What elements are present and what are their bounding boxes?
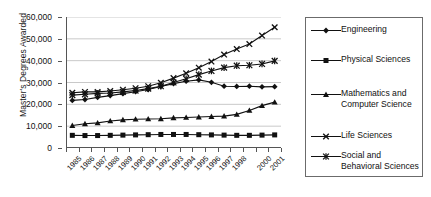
x-tick-mark <box>192 148 193 152</box>
x-tick-mark <box>205 148 206 152</box>
y-tick-mark <box>58 39 62 40</box>
legend-item-physical-sciences[interactable]: Physical Sciences <box>311 54 410 66</box>
legend-item-social-and-behavioral-sciences[interactable]: Social and Behavioral Sciences <box>311 150 422 171</box>
x-tick-mark <box>281 148 282 152</box>
legend-label: Social and Behavioral Sciences <box>341 150 422 171</box>
legend-marker-triangle-icon <box>311 89 341 100</box>
x-tick-mark <box>268 148 269 152</box>
y-tick-label: 50,000 <box>26 34 52 44</box>
x-tick-mark <box>256 148 257 152</box>
legend-label: Engineering <box>341 24 387 35</box>
x-tick-mark <box>218 148 219 152</box>
y-tick-label: 0 <box>47 143 52 153</box>
legend-item-mathematics-and-computer-science[interactable]: Mathematics and Computer Science <box>311 88 422 109</box>
plot-area <box>66 17 281 148</box>
x-tick-mark <box>79 148 80 152</box>
y-tick-label: 20,000 <box>26 99 52 109</box>
x-tick-mark <box>129 148 130 152</box>
x-tick-mark <box>104 148 105 152</box>
x-tick-mark <box>167 148 168 152</box>
legend-marker-x-icon <box>311 131 341 142</box>
chart-legend: EngineeringPhysical SciencesMathematics … <box>305 17 423 177</box>
chart-container: Master's Degrees Awarded 010,00020,00030… <box>0 0 431 197</box>
legend-marker-asterisk-icon <box>311 151 341 162</box>
y-axis-ticks: 010,00020,00030,00040,00050,00060,000 <box>0 17 62 148</box>
y-tick-label: 10,000 <box>26 121 52 131</box>
x-tick-mark <box>117 148 118 152</box>
x-tick-mark <box>180 148 181 152</box>
x-tick-mark <box>66 148 67 152</box>
legend-marker-square-icon <box>311 55 341 66</box>
legend-label: Physical Sciences <box>341 54 410 65</box>
data-point-diamond <box>323 28 329 34</box>
y-tick-mark <box>58 104 62 105</box>
data-point-square <box>324 58 329 63</box>
legend-marker-diamond-icon <box>311 25 341 36</box>
data-point-asterisk <box>323 153 329 160</box>
x-tick-mark <box>91 148 92 152</box>
legend-label: Mathematics and Computer Science <box>341 88 422 109</box>
y-tick-label: 30,000 <box>26 78 52 88</box>
legend-item-life-sciences[interactable]: Life Sciences <box>311 130 392 142</box>
x-tick-mark <box>155 148 156 152</box>
y-tick-label: 40,000 <box>26 56 52 66</box>
legend-label: Life Sciences <box>341 130 392 141</box>
x-tick-mark <box>142 148 143 152</box>
data-point-x <box>323 134 329 140</box>
legend-item-engineering[interactable]: Engineering <box>311 24 387 36</box>
axis-frame <box>66 17 281 148</box>
x-tick-mark <box>230 148 231 152</box>
y-tick-mark <box>58 61 62 62</box>
y-tick-mark <box>58 17 62 18</box>
data-point-triangle <box>323 92 329 97</box>
x-axis-ticks: 1985198619871988198919901991199219931994… <box>66 150 281 196</box>
y-tick-mark <box>58 126 62 127</box>
x-tick-mark <box>243 148 244 152</box>
y-tick-mark <box>58 148 62 149</box>
y-tick-mark <box>58 83 62 84</box>
y-tick-label: 60,000 <box>26 12 52 22</box>
